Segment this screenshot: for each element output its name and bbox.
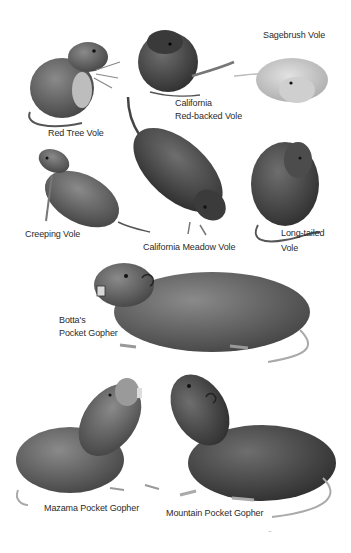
red-tree-vole-figure [29,42,120,126]
mazama-pocket-gopher-figure [16,372,159,505]
illustration-plate: Red Tree Vole California Red-backed Vole… [0,0,351,553]
label-mazama-pocket-gopher: Mazama Pocket Gopher [44,503,139,514]
long-tailed-vole-figure [251,142,320,241]
animal-illustrations [0,0,351,553]
bottas-pocket-gopher-figure [94,263,310,362]
label-california-red-backed-vole-line1: California [175,98,212,109]
label-bottas-pocket-gopher-line2: Pocket Gopher [59,328,118,339]
label-sagebrush-vole: Sagebrush Vole [263,30,325,41]
label-california-red-backed-vole-line2: Red-backed Vole [175,111,242,122]
label-california-meadow-vole: California Meadow Vole [143,242,235,253]
creeping-vole-figure [35,144,150,239]
sagebrush-vole-figure [234,58,328,103]
california-red-backed-vole-figure [138,30,234,96]
label-long-tailed-vole-line1: Long-tailed [281,228,324,239]
label-bottas-pocket-gopher-line1: Botta's [59,315,86,326]
label-mountain-pocket-gopher: Mountain Pocket Gopher [166,508,263,519]
mountain-pocket-gopher-figure [158,364,336,517]
label-creeping-vole: Creeping Vole [25,229,80,240]
label-red-tree-vole: Red Tree Vole [48,128,104,139]
artist-signature: ~ [268,526,271,537]
label-long-tailed-vole-line2: Vole [281,243,298,254]
